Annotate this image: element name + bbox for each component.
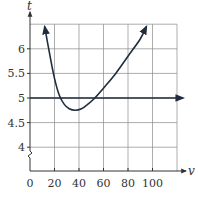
x-tick-label: 80 [121, 177, 135, 190]
x-axis-label: v [188, 164, 195, 178]
tick-labels: 02040608010044.555.56 [8, 43, 164, 190]
x-tick-label: 20 [48, 177, 62, 190]
axis-break-icon [28, 151, 32, 158]
x-tick-label: 40 [72, 177, 86, 190]
data-series [30, 27, 183, 111]
chart: 02040608010044.555.56 v t [0, 0, 198, 198]
y-tick-label: 4 [18, 141, 25, 154]
x-tick-label: 60 [97, 177, 111, 190]
y-tick-label: 4.5 [8, 117, 26, 130]
x-tick-label: 100 [142, 177, 163, 190]
y-tick-label: 5 [18, 92, 25, 105]
x-tick-label: 0 [27, 177, 34, 190]
y-axis-label: t [27, 0, 32, 13]
y-tick-label: 5.5 [8, 67, 26, 80]
y-tick-label: 6 [18, 43, 25, 56]
